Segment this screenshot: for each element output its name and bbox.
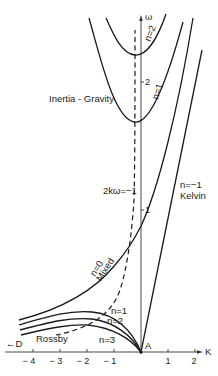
k-tick-label: − 1 [104, 356, 117, 366]
kelvin-n-label: n=−1 [180, 179, 202, 190]
k-tick-label: − 2 [77, 356, 90, 366]
omega-axis-label: ω [145, 12, 152, 22]
k-tick-label: 2 [191, 356, 196, 366]
rossby-label: Rossby [36, 333, 68, 344]
k-tick-label: − 3 [50, 356, 63, 366]
dashed-curve-2k-omega [56, 30, 135, 335]
d-direction-label: ←D [6, 338, 23, 349]
equatorial-wave-dispersion-diagram: ω K − 4 − 3 − 2 − 1 1 2 2 1 A ←D [0, 0, 218, 376]
rossby-n2-label: n=2 [107, 315, 123, 326]
kelvin-label: Kelvin [180, 190, 206, 201]
curve-labels: n=2 n=1 Inertia - Gravity 2kω=−1 n=−1 Ke… [36, 24, 206, 345]
origin-label: A [145, 340, 152, 351]
k-tick-label: − 4 [23, 356, 36, 366]
k-axis-label: K [205, 346, 212, 357]
dashed-curve-label: 2kω=−1 [103, 185, 137, 196]
inertia-gravity-label: Inertia - Gravity [49, 93, 114, 104]
inertia-gravity-n2-curve [106, 14, 166, 55]
n1-upper-label: n=1 [149, 82, 164, 101]
omega-axis-arrow-icon [139, 15, 143, 21]
omega-tick-label: 2 [145, 77, 150, 87]
rossby-n3-label: n=3 [99, 334, 115, 345]
k-tick-label: 1 [165, 356, 170, 366]
inertia-gravity-n1-curve [89, 18, 183, 122]
k-axis-arrow-icon [197, 350, 203, 354]
n2-upper-label: n=2 [142, 24, 158, 43]
